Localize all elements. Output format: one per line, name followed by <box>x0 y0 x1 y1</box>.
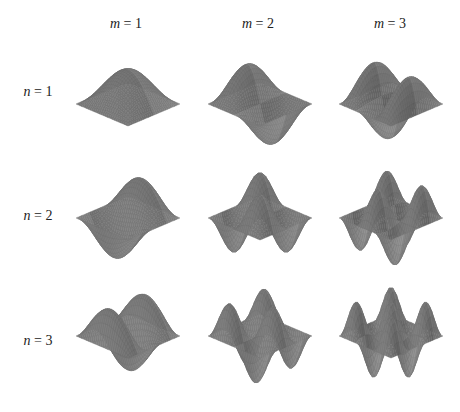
row-label-eq: = 3 <box>31 333 53 348</box>
column-label-m2: m = 2 <box>242 16 274 32</box>
surface-plot-m3-n2 <box>326 166 456 286</box>
column-label-m1: m = 1 <box>110 16 142 32</box>
column-label-var: m <box>374 16 384 31</box>
column-label-eq: = 2 <box>252 16 274 31</box>
surface-mesh <box>76 69 180 127</box>
row-label-var: n <box>24 208 31 223</box>
surface-mesh <box>339 172 443 265</box>
row-label-n1: n = 1 <box>24 84 53 100</box>
row-label-eq: = 2 <box>31 208 53 223</box>
surface-plot-m2-n2 <box>195 166 325 286</box>
surface-plot-m1-n2 <box>63 166 193 286</box>
surface-mesh <box>208 173 312 252</box>
column-label-var: m <box>242 16 252 31</box>
surface-plot-m2-n1 <box>195 52 325 172</box>
surface-mesh <box>339 62 443 138</box>
surface-plot-m1-n3 <box>63 284 193 404</box>
surface-plot-m2-n3 <box>195 284 325 404</box>
surface-mesh <box>76 294 180 370</box>
surface-mesh <box>76 178 180 258</box>
row-label-var: n <box>24 84 31 99</box>
surface-mesh <box>208 64 312 144</box>
column-label-m3: m = 3 <box>374 16 406 32</box>
surface-plot-m1-n1 <box>63 52 193 172</box>
surface-mesh <box>208 290 312 383</box>
row-label-n3: n = 3 <box>24 333 53 349</box>
surface-plot-m3-n1 <box>326 52 456 172</box>
surface-plot-m3-n3 <box>326 284 456 404</box>
row-label-var: n <box>24 333 31 348</box>
column-label-var: m <box>110 16 120 31</box>
row-label-eq: = 1 <box>31 84 53 99</box>
column-label-eq: = 3 <box>384 16 406 31</box>
surface-mesh <box>339 288 443 377</box>
column-label-eq: = 1 <box>120 16 142 31</box>
row-label-n2: n = 2 <box>24 208 53 224</box>
